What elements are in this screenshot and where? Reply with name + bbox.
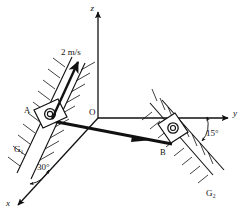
guide-g1-label: G₁ (14, 144, 24, 154)
z-axis-label: z (89, 3, 94, 13)
origin-label: O (89, 107, 96, 117)
y-axis-label: y (232, 108, 237, 118)
angle-15-label: 15° (206, 128, 219, 138)
guide-g2-label: G₂ (206, 188, 216, 198)
connecting-rod-ab (52, 121, 172, 144)
collar-b-bore-inner (171, 126, 176, 131)
point-b-label: B (160, 147, 166, 157)
angle-30-label: 30° (37, 162, 50, 172)
x-axis (18, 118, 98, 205)
velocity-label: 2 m/s (61, 47, 81, 57)
figure-canvas: z y x O A B G₁ G₂ 30° 15° 2 m/s (0, 0, 245, 223)
collar-a-bore-inner (47, 111, 52, 116)
rod-ab-line (52, 121, 172, 144)
diagram-svg: z y x O A B G₁ G₂ 30° 15° 2 m/s (0, 0, 245, 223)
point-a-label: A (24, 105, 31, 115)
x-axis-label: x (5, 198, 10, 208)
